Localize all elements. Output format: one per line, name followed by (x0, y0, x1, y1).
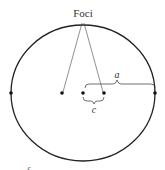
foci-label: Foci (73, 7, 93, 19)
a-label: a (115, 69, 120, 80)
left-focus-point (60, 91, 64, 95)
brace-a (85, 80, 155, 88)
right-focus-point (102, 91, 106, 95)
right-vertex-point (153, 91, 157, 95)
ellipse-foci-diagram: Foci a c c (0, 0, 165, 170)
leader-line-right-focus (84, 23, 103, 92)
center-point (81, 91, 85, 95)
stray-c-label: c (27, 164, 31, 170)
c-label: c (92, 104, 97, 115)
brace-c (83, 97, 104, 104)
leader-line-left-focus (63, 23, 82, 92)
left-vertex-point (9, 91, 13, 95)
